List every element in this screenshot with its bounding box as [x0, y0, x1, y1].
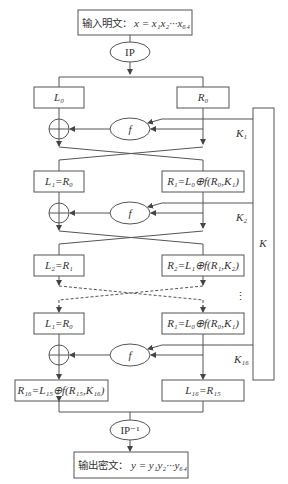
svg-text:R₁=L₀⊕f(R₀,K₁): R₁=L₀⊕f(R₀,K₁) [166, 175, 239, 188]
ip-inverse-node: IP⁻¹ [110, 420, 150, 440]
output-ciphertext-box: 输出密文： y = y₁y₂···y₆₄ [74, 452, 188, 478]
f-function-2: f [110, 202, 150, 224]
r1-box: R₁=L₀⊕f(R₀,K₁) [162, 171, 244, 192]
des-flowchart: 输入明文： x = x₁x₂···x₆₄ IP L₀ R₀ K f K₁ [0, 0, 288, 484]
l16-box: L₁₆=R₁₅ [162, 380, 244, 401]
l0-box: L₀ [34, 87, 84, 108]
xor-16-icon [49, 345, 69, 365]
xor-2-icon [49, 203, 69, 223]
svg-text:R₀: R₀ [197, 91, 209, 103]
svg-text:R₂=L₁⊕f(R₁,K₂): R₂=L₁⊕f(R₁,K₂) [166, 259, 239, 272]
svg-text:L₁=R₀: L₁=R₀ [44, 175, 73, 187]
svg-text:输出密文：: 输出密文： [78, 459, 128, 471]
ellipsis: ⋮ [235, 290, 246, 302]
svg-text:K: K [258, 237, 267, 249]
f-function-16: f [110, 344, 150, 366]
svg-text:L₁₆=R₁₅: L₁₆=R₁₅ [184, 384, 221, 396]
ip-node: IP [110, 42, 150, 62]
k16-label: K₁₆ [233, 353, 249, 365]
r0-box: R₀ [177, 87, 229, 108]
f-function-1: f [110, 118, 150, 140]
l15-box: L₁=R₀ [34, 313, 84, 334]
input-plaintext-box: 输入明文： x = x₁x₂···x₆₄ [78, 10, 192, 35]
svg-text:L₀: L₀ [53, 91, 64, 103]
svg-text:y = y₁y₂···y₆₄: y = y₁y₂···y₆₄ [130, 459, 187, 471]
r2-box: R₂=L₁⊕f(R₁,K₂) [162, 255, 244, 276]
k1-label: K₁ [235, 127, 247, 139]
svg-text:R₁₆=L₁₅⊕f(R₁₅,K₁₆): R₁₆=L₁₅⊕f(R₁₅,K₁₆) [16, 384, 104, 397]
svg-text:输入明文：: 输入明文： [82, 17, 132, 29]
svg-text:x = x₁x₂···x₆₄: x = x₁x₂···x₆₄ [133, 17, 190, 29]
xor-1-icon [49, 119, 69, 139]
r16-box: R₁₆=L₁₅⊕f(R₁₅,K₁₆) [15, 380, 108, 401]
k2-label: K₂ [235, 211, 247, 223]
svg-text:L₂=R₁: L₂=R₁ [44, 259, 73, 271]
svg-text:IP⁻¹: IP⁻¹ [120, 424, 139, 436]
l2-box: L₂=R₁ [34, 255, 84, 276]
key-schedule-box: K [253, 108, 274, 380]
r15-box: R₁=L₀⊕f(R₀,K₁) [162, 313, 244, 334]
svg-text:IP: IP [125, 46, 135, 58]
l1-box: L₁=R₀ [34, 171, 84, 192]
svg-text:R₁=L₀⊕f(R₀,K₁): R₁=L₀⊕f(R₀,K₁) [166, 317, 239, 330]
svg-text:L₁=R₀: L₁=R₀ [44, 317, 73, 329]
